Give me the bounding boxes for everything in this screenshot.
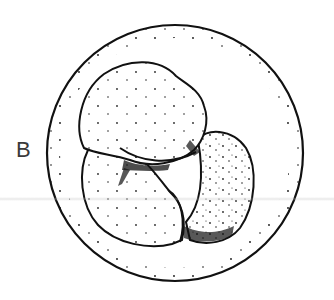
- scan-artifact-band: [0, 197, 334, 201]
- cell-stippling: [79, 62, 253, 246]
- embryo-figure: B: [0, 0, 334, 300]
- panel-label: B: [16, 139, 31, 161]
- embryo-illustration: [0, 0, 334, 300]
